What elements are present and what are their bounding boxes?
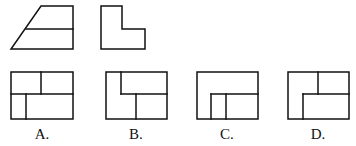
option-a-label: A. <box>22 126 62 143</box>
option-c-figure <box>197 72 258 119</box>
three-view-diagram <box>0 0 356 146</box>
option-b-label: B. <box>116 126 156 143</box>
option-d-figure <box>288 72 349 119</box>
front-view <box>11 6 73 49</box>
option-b-figure <box>106 72 167 119</box>
option-a-figure <box>11 72 73 119</box>
option-d-label: D. <box>298 126 338 143</box>
side-view <box>101 6 145 49</box>
option-c-label: C. <box>207 126 247 143</box>
